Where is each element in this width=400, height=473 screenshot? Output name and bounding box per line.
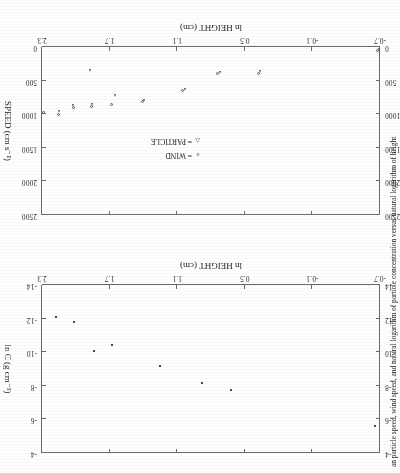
y-tick-right [42,147,46,148]
y-tick [376,180,380,181]
legend-label: = WIND [165,151,194,160]
x-tick [109,285,110,289]
y-tick-label-right: 2500 [22,211,37,218]
x-tick [311,285,312,289]
data-point-circle [110,103,113,106]
y-axis-title: SPEED (cm s⁻¹) [4,101,13,161]
x-tick [176,285,177,289]
y-tick-right [42,318,46,319]
y-tick-label: 0 [385,43,389,50]
y-axis-line [379,47,380,215]
y-tick-label-right: -10 [27,349,37,356]
y-tick-label-right: -8 [31,382,37,389]
x-tick-label: 2.3 [37,36,47,43]
data-point-triangle [91,103,93,106]
data-point-triangle [259,70,261,73]
data-point-square [55,316,57,318]
y-tick-right [42,46,46,47]
x-tick-top [244,449,245,453]
x-tick-top [311,211,312,215]
x-tick-label: -0.7 [374,274,386,281]
x-axis-top-line [42,214,380,215]
data-point-square [93,350,95,352]
data-point-triangle [143,99,145,102]
y-tick-label: 1000 [385,111,400,118]
data-point-triangle [114,94,116,97]
figure-caption: an particle speed, wind speed, and natur… [390,137,399,467]
x-tick-label: 1.1 [172,36,182,43]
x-tick [379,285,380,289]
data-point-triangle [72,104,74,107]
y-tick-label-right: 0 [33,43,37,50]
legend-entry-wind: o = WIND [165,151,202,159]
x-tick [244,47,245,51]
x-axis-title: ln HEIGHT (cm) [180,261,242,270]
y-tick-right [42,418,46,419]
y-axis-right-line [41,47,42,215]
x-tick-label: 2.3 [37,274,47,281]
y-tick-label-right: 2000 [22,178,37,185]
x-tick-label: 1.7 [105,36,115,43]
chart-lnc-vs-height: 2.31.71.10.5-0.1-0.7-4-4-6-6-8-8-10-10-1… [0,237,400,473]
x-tick-label: 0.5 [240,274,250,281]
data-point-triangle [184,88,186,91]
y-tick [376,147,380,148]
x-tick-top [244,211,245,215]
y-tick [376,351,380,352]
y-tick-right [42,214,46,215]
x-tick-top [176,211,177,215]
data-point-square [111,344,113,346]
x-tick-top [176,449,177,453]
x-tick-top [109,449,110,453]
y-tick-label-right: -6 [31,416,37,423]
y-tick [376,80,380,81]
y-tick-label-right: -12 [27,315,37,322]
y-tick-right [42,284,46,285]
wind-marker-icon: o [194,152,202,158]
y-tick-right [42,351,46,352]
x-tick [176,47,177,51]
data-point-square [201,382,203,384]
x-axis-top-line [42,452,380,453]
data-point-square [159,365,161,367]
x-tick-label: -0.1 [306,36,318,43]
x-axis-line [42,284,380,285]
y-tick-right [42,385,46,386]
data-point-triangle [58,110,60,113]
legend-label: = PARTICLE [151,137,194,146]
y-tick-label-right: 500 [26,77,37,84]
y-tick [376,418,380,419]
x-tick-top [311,449,312,453]
legend-entry-particle: △ = PARTICLE [151,137,202,145]
y-axis-right-line [41,285,42,453]
data-point-triangle [219,71,221,74]
y-tick-label-right: 1500 [22,144,37,151]
data-point-triangle [89,69,91,72]
x-tick [311,47,312,51]
particle-marker-icon: △ [194,138,202,144]
y-tick-right [42,180,46,181]
x-tick-label: -0.7 [374,36,386,43]
y-tick [376,452,380,453]
x-tick [244,285,245,289]
x-axis-line [42,46,380,47]
y-tick [376,318,380,319]
y-tick [376,46,380,47]
y-tick [376,113,380,114]
y-tick-label: 500 [385,77,396,84]
y-tick-label-right: -14 [27,281,37,288]
x-tick-top [109,211,110,215]
y-tick [376,214,380,215]
x-tick [109,47,110,51]
data-point-circle [57,113,60,116]
y-tick-right [42,452,46,453]
chart-speed-vs-height: 2.31.71.10.5-0.1-0.700500500100010001500… [0,0,400,237]
x-tick-label: 1.7 [105,274,115,281]
data-point-triangle [378,48,380,51]
y-tick [376,284,380,285]
data-point-square [230,389,232,391]
x-tick [41,285,42,289]
y-tick-right [42,80,46,81]
y-tick-label-right: 1000 [22,111,37,118]
y-axis-title: ln C (g cm⁻³) [4,345,13,394]
